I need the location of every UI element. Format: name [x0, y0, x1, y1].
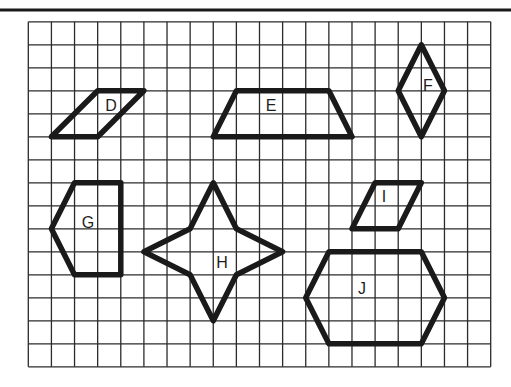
grid	[28, 22, 490, 367]
shape-label-h: H	[216, 254, 228, 271]
shape-label-d: D	[105, 97, 117, 114]
shape-label-f: F	[423, 77, 433, 94]
shapes-grid-figure: DEFGHIJ	[0, 0, 511, 387]
shape-label-e: E	[266, 97, 277, 114]
shape-label-i: I	[382, 188, 386, 205]
shape-label-g: G	[82, 214, 94, 231]
shape-label-j: J	[358, 280, 366, 297]
